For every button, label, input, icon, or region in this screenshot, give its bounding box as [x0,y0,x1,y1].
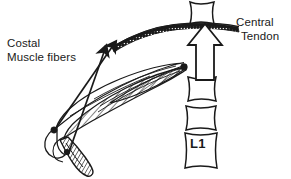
vertical-hollow-arrow [188,24,222,80]
label-vertebra-l1: L1 [190,136,206,151]
label-central-line2: Tendon [236,29,279,43]
label-costal-line1: Costal [7,37,40,49]
rib-costal-margin [60,137,93,176]
label-central-line1: Central [236,16,274,28]
label-costal-line2: Muscle fibers [7,51,76,63]
vertebra-body-mid [186,106,216,130]
vertebra-body-top [190,2,214,24]
figure-canvas: Costal Muscle fibers Central Tendon L1 [0,0,291,179]
label-central-tendon: Central Tendon [236,15,279,43]
tendon-insertion-dot [181,64,188,71]
central-tendon-dome [112,23,239,52]
label-costal-muscle-fibers: Costal Muscle fibers [7,36,76,64]
